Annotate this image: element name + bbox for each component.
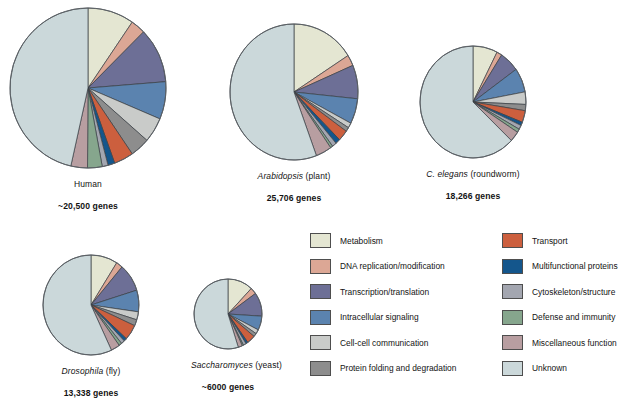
pie-caption-species-drosophila: Drosophila (fly) — [40, 366, 142, 377]
legend-swatch-icon — [502, 233, 523, 248]
legend-swatch-icon — [310, 233, 331, 248]
pie-chart-celegans: C. elegans (roundworm)18,266 genes — [417, 43, 529, 202]
legend-item-left-2: Transcription/translation — [310, 282, 495, 301]
legend-label: Miscellaneous function — [532, 338, 617, 348]
legend-item-left-1: DNA replication/modification — [310, 257, 495, 276]
legend-item-right-0: Transport — [502, 231, 630, 250]
legend-item-left-5: Protein folding and degradation — [310, 359, 495, 378]
legend-swatch-icon — [310, 284, 331, 299]
pie-caption-species-human: Human — [7, 179, 169, 190]
legend-item-right-2: Cytoskeleton/structure — [502, 282, 630, 301]
legend-swatch-icon — [502, 310, 523, 325]
legend-item-right-4: Miscellaneous function — [502, 333, 630, 352]
legend-item-right-5: Unknown — [502, 359, 630, 378]
pie-caption-species-celegans: C. elegans (roundworm) — [417, 169, 529, 180]
legend-swatch-icon — [310, 310, 331, 325]
legend-swatch-icon — [310, 259, 331, 274]
pie-slice-unknown — [10, 8, 88, 166]
pie-caption-species-saccharomyces: Saccharomyces (yeast) — [191, 360, 265, 371]
legend-column-left: MetabolismDNA replication/modificationTr… — [310, 231, 495, 385]
pie-svg-saccharomyces — [191, 276, 265, 352]
pie-caption-species-arabidopsis: Arabidopsis (plant) — [227, 171, 361, 182]
pie-chart-saccharomyces: Saccharomyces (yeast)~6000 genes — [191, 276, 265, 393]
legend-label: Unknown — [532, 363, 567, 373]
pie-caption-genecount-arabidopsis: 25,706 genes — [227, 193, 361, 204]
legend-item-left-0: Metabolism — [310, 231, 495, 250]
legend-item-right-3: Defense and immunity — [502, 308, 630, 327]
pie-svg-drosophila — [40, 252, 142, 358]
pie-svg-celegans — [417, 43, 529, 161]
legend-label: Metabolism — [340, 236, 383, 246]
pie-caption-genecount-celegans: 18,266 genes — [417, 191, 529, 202]
legend-swatch-icon — [502, 361, 523, 376]
legend-column-right: TransportMultifunctional proteinsCytoske… — [502, 231, 630, 385]
pie-chart-human: Human~20,500 genes — [7, 5, 169, 212]
legend-label: Transcription/translation — [340, 287, 429, 297]
legend-swatch-icon — [502, 259, 523, 274]
legend-swatch-icon — [310, 335, 331, 350]
legend-item-right-1: Multifunctional proteins — [502, 257, 630, 276]
species-name: Drosophila — [62, 366, 104, 376]
legend-label: Transport — [532, 236, 568, 246]
species-name: Saccharomyces — [191, 360, 253, 370]
legend-label: Cytoskeleton/structure — [532, 287, 615, 297]
legend-label: DNA replication/modification — [340, 261, 445, 271]
pie-chart-arabidopsis: Arabidopsis (plant)25,706 genes — [227, 21, 361, 204]
legend-label: Defense and immunity — [532, 312, 615, 322]
pie-caption-genecount-human: ~20,500 genes — [7, 201, 169, 212]
pie-caption-genecount-drosophila: 13,338 genes — [40, 388, 142, 399]
legend-swatch-icon — [502, 284, 523, 299]
legend-label: Protein folding and degradation — [340, 363, 456, 373]
pie-svg-arabidopsis — [227, 21, 361, 163]
legend-item-left-3: Intracellular signaling — [310, 308, 495, 327]
legend-label: Multifunctional proteins — [532, 261, 618, 271]
pie-svg-human — [7, 5, 169, 171]
legend-swatch-icon — [310, 361, 331, 376]
legend-label: Cell-cell communication — [340, 338, 428, 348]
pie-caption-genecount-saccharomyces: ~6000 genes — [191, 382, 265, 393]
legend-item-left-4: Cell-cell communication — [310, 333, 495, 352]
pie-chart-drosophila: Drosophila (fly)13,338 genes — [40, 252, 142, 399]
species-name: C. elegans — [426, 169, 468, 179]
legend-label: Intracellular signaling — [340, 312, 419, 322]
species-name: Arabidopsis — [258, 171, 304, 181]
legend-swatch-icon — [502, 335, 523, 350]
legend: MetabolismDNA replication/modificationTr… — [310, 231, 628, 391]
